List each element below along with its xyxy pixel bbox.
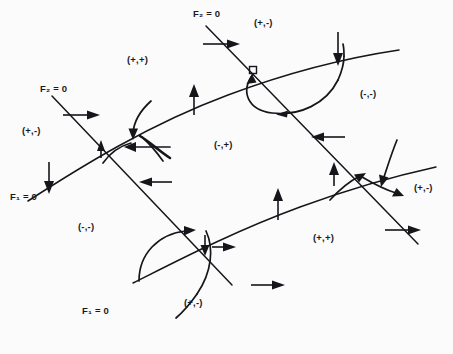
region-label-lower-left-text: (-,-)	[78, 221, 94, 232]
arrow-lowmid-right	[212, 243, 236, 252]
arrow-right-up	[329, 162, 339, 186]
region-label-center: (-,+)	[214, 139, 233, 150]
region-label-upper-left: (+,+)	[127, 54, 148, 65]
region-label-top-right: (+,-)	[254, 17, 273, 28]
region-label-center-text: (-,+)	[214, 139, 233, 150]
traj-right-in-arrowhead	[379, 175, 389, 188]
nullcline-f2-lower	[52, 96, 232, 285]
isocline-label-f2-left: F₂ = 0	[40, 83, 67, 94]
nullcline-f2-upper	[206, 26, 418, 244]
traj-upper-in	[343, 44, 344, 56]
traj-left-in-top-arrowhead	[129, 129, 139, 141]
region-label-bottom-text: (+,-)	[184, 297, 203, 308]
arrow-left-up	[97, 140, 105, 158]
traj-right-in	[384, 140, 397, 177]
isocline-label-f1-left-text: F₁ = 0	[10, 191, 37, 202]
traj-lower-arc-arrowhead	[184, 226, 196, 236]
arrow-f2top-right	[203, 40, 240, 49]
arrow-mid-up	[273, 188, 283, 220]
region-label-lower-right: (+,+)	[313, 232, 334, 243]
direction-arrow-group	[44, 32, 421, 290]
traj-upper-loop-arrowhead	[276, 111, 288, 118]
isocline-label-f2-top: F₂ = 0	[193, 8, 220, 19]
nullcline-f1-upper	[28, 50, 399, 201]
traj-upper-loop	[247, 74, 338, 113]
arrow-bottom-right	[251, 281, 285, 290]
nullcline-f1-lower	[133, 167, 436, 283]
region-label-right-upper: (-,-)	[360, 88, 376, 99]
traj-lower-arc	[139, 231, 186, 281]
region-label-upper-left-text: (+,+)	[127, 54, 148, 65]
isocline-label-f1-bottom: F₁ = 0	[82, 305, 109, 316]
phase-plane-figure: F₂ = 0 F₂ = 0 F₁ = 0 F₁ = 0 (+,-) (+,+) …	[0, 0, 453, 354]
region-label-far-right-text: (+,-)	[414, 182, 433, 193]
traj-lower-out	[197, 231, 211, 294]
figure-canvas	[0, 0, 453, 354]
isocline-label-f1-bottom-text: F₁ = 0	[82, 305, 109, 316]
traj-left-in-top	[133, 101, 151, 133]
region-label-top-right-text: (+,-)	[254, 17, 273, 28]
isocline-label-f1-left: F₁ = 0	[10, 191, 37, 202]
region-label-lower-left: (-,-)	[78, 221, 94, 232]
arrow-far-right	[385, 226, 421, 235]
region-label-far-right: (+,-)	[414, 182, 433, 193]
arrow-f2low-right	[63, 111, 100, 120]
isocline-label-f2-left-text: F₂ = 0	[40, 83, 67, 94]
region-label-far-left: (+,-)	[22, 125, 41, 136]
region-label-right-upper-text: (-,-)	[360, 88, 376, 99]
region-label-bottom: (+,-)	[184, 297, 203, 308]
region-label-lower-right-text: (+,+)	[313, 232, 334, 243]
isocline-label-f2-top-text: F₂ = 0	[193, 8, 220, 19]
arrow-center-left	[139, 178, 172, 187]
region-label-far-left-text: (+,-)	[22, 125, 41, 136]
